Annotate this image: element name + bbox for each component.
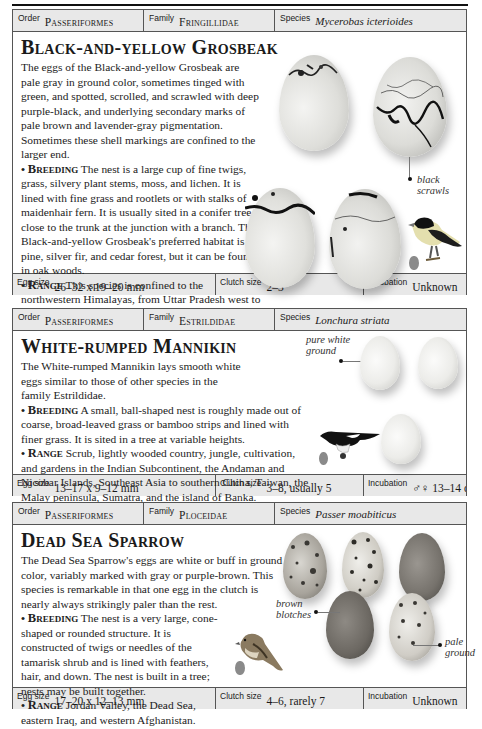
callout-dot xyxy=(438,643,442,647)
scrawl-marks xyxy=(245,188,315,288)
family-label: Family xyxy=(149,312,174,322)
egg-image-2 xyxy=(418,337,458,389)
egg-image-3 xyxy=(245,188,315,288)
family-label: Family xyxy=(149,13,174,23)
incubation-value: Unknown xyxy=(412,694,457,708)
species-value: Mycerobas icterioides xyxy=(315,14,413,29)
order-label: Order xyxy=(18,506,40,516)
species-text: The eggs of the Black-and-yellow Grosbea… xyxy=(21,60,261,321)
egg-image-1 xyxy=(360,336,400,390)
egg-image-1 xyxy=(283,533,327,599)
callout-black-scrawls: black scrawls xyxy=(417,174,466,196)
species-cell: Species Mycerobas icterioides xyxy=(275,10,466,31)
incubation-value: ♂♀ 13–14 days xyxy=(412,481,466,495)
bird-illustration xyxy=(318,426,384,466)
species-title: Dead Sea Sparrow xyxy=(21,528,184,552)
family-value: Fringillidae xyxy=(179,15,239,30)
taxonomy-header: Order Passeriformes Family Ploceidae Spe… xyxy=(13,503,466,525)
callout-brown-blotches: brown blotches xyxy=(276,598,316,620)
range-label: Range xyxy=(28,278,63,292)
egg-image-3 xyxy=(399,533,445,601)
order-value: Passeriformes xyxy=(45,15,114,30)
order-label: Order xyxy=(18,312,40,322)
egg-image-4 xyxy=(329,189,401,289)
incubation-label: Incubation xyxy=(368,691,407,701)
incubation-value: Unknown xyxy=(412,280,457,294)
taxonomy-header: Order Passeriformes Family Fringillidae … xyxy=(13,10,466,32)
order-value: Passeriformes xyxy=(45,508,114,523)
speckle-marks xyxy=(342,532,384,598)
actual-size-egg xyxy=(235,661,245,675)
breeding-label: Breeding xyxy=(28,162,78,176)
callout-line xyxy=(409,157,410,179)
breeding-label: Breeding xyxy=(28,611,78,625)
scrawl-marks xyxy=(373,57,447,157)
description-text: The eggs of the Black-and-yellow Grosbea… xyxy=(21,60,261,162)
order-cell: Order Passeriformes xyxy=(13,503,144,524)
range-text: Scrub, lightly wooded country, jungle, c… xyxy=(21,447,308,503)
egg-image-4 xyxy=(326,591,374,659)
callout-dot xyxy=(408,177,412,181)
species-cell: Species Lonchura striata xyxy=(275,309,466,330)
actual-size-egg xyxy=(319,452,328,465)
family-cell: Family Estrildidae xyxy=(144,309,275,330)
species-entry-dead-sea-sparrow: Order Passeriformes Family Ploceidae Spe… xyxy=(12,502,467,709)
top-rule xyxy=(12,4,468,6)
species-label: Species xyxy=(280,13,310,23)
entry-body: White-rumped Mannikin The White-rumped M… xyxy=(13,331,466,474)
breeding-paragraph: • Breeding A small, ball-shaped nest is … xyxy=(21,403,313,447)
family-value: Estrildidae xyxy=(179,314,235,329)
egg-image-5 xyxy=(389,593,435,661)
scrawl-marks xyxy=(329,189,401,289)
breeding-paragraph: • Breeding The nest is a very large, con… xyxy=(21,611,221,698)
species-title: White-rumped Mannikin xyxy=(21,334,237,358)
egg-image-1 xyxy=(279,55,349,151)
breeding-text: The nest is a large cup of fine twigs, g… xyxy=(21,163,256,277)
species-title: Black-and-yellow Grosbeak xyxy=(21,35,278,59)
scrawl-marks xyxy=(279,55,349,151)
breeding-paragraph: • Breeding The nest is a large cup of fi… xyxy=(21,162,261,278)
species-label: Species xyxy=(280,506,310,516)
entry-body: Black-and-yellow Grosbeak The eggs of th… xyxy=(13,32,466,273)
species-value: Passer moabiticus xyxy=(315,507,396,522)
incubation-cell: Incubation Unknown xyxy=(364,688,466,709)
speckle-marks xyxy=(283,533,327,599)
description-text: The Dead Sea Sparrow's eggs are white or… xyxy=(21,553,283,611)
order-cell: Order Passeriformes xyxy=(13,10,144,31)
family-cell: Family Ploceidae xyxy=(144,503,275,524)
callout-line xyxy=(413,645,439,646)
speckle-marks xyxy=(389,593,435,661)
egg-image-2 xyxy=(373,57,447,157)
species-value: Lonchura striata xyxy=(315,313,389,328)
range-label: Range xyxy=(28,446,63,460)
species-entry-mannikin: Order Passeriformes Family Estrildidae S… xyxy=(12,308,467,496)
incubation-cell: Incubation ♂♀ 13–14 days xyxy=(364,475,466,496)
family-cell: Family Fringillidae xyxy=(144,10,275,31)
callout-line xyxy=(318,612,340,613)
range-label: Range xyxy=(28,698,63,712)
description-text: The White-rumped Mannikin lays smooth wh… xyxy=(21,359,313,403)
species-label: Species xyxy=(280,312,310,322)
range-paragraph: • Range Scrub, lightly wooded country, j… xyxy=(21,446,313,504)
range-paragraph: • Range Jordan Valley, the Dead Sea, eas… xyxy=(21,698,221,727)
actual-size-egg xyxy=(409,256,419,270)
incubation-label: Incubation xyxy=(368,478,407,488)
species-cell: Species Passer moabiticus xyxy=(275,503,466,524)
family-label: Family xyxy=(149,506,174,516)
species-entry-grosbeak: Order Passeriformes Family Fringillidae … xyxy=(12,9,467,295)
callout-pale-ground: pale ground xyxy=(445,636,479,658)
order-cell: Order Passeriformes xyxy=(13,309,144,330)
egg-image-3 xyxy=(381,414,421,464)
callout-pure-white-ground: pure white ground xyxy=(306,334,352,356)
order-value: Passeriformes xyxy=(45,314,114,329)
order-label: Order xyxy=(18,13,40,23)
entry-body: Dead Sea Sparrow The Dead Sea Sparrow's … xyxy=(13,525,466,687)
family-value: Ploceidae xyxy=(179,508,227,523)
egg-image-2 xyxy=(342,532,384,598)
taxonomy-header: Order Passeriformes Family Estrildidae S… xyxy=(13,309,466,331)
species-text: The White-rumped Mannikin lays smooth wh… xyxy=(21,359,313,504)
breeding-label: Breeding xyxy=(28,403,78,417)
